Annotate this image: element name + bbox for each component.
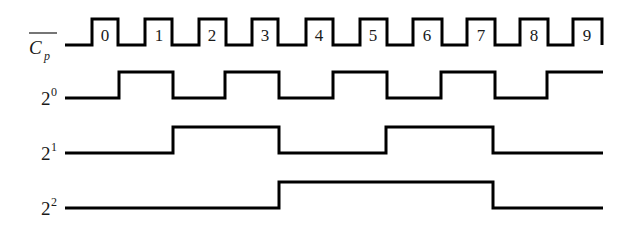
- bit0-label-base: 2: [41, 88, 51, 109]
- bit1-signal-label: 2 1: [41, 140, 57, 164]
- pulse-label-6: 6: [423, 26, 432, 45]
- pulse-label-2: 2: [208, 26, 217, 45]
- bit1-label-base: 2: [41, 143, 51, 164]
- bit1-waveform: [65, 127, 603, 153]
- bit0-signal-label: 2 0: [41, 85, 57, 109]
- bit1-label-exp: 1: [51, 140, 57, 154]
- bit2-waveform: [65, 182, 603, 208]
- bit2-label-base: 2: [41, 198, 51, 219]
- clock-waveform: [65, 19, 602, 45]
- pulse-label-7: 7: [477, 26, 486, 45]
- pulse-label-3: 3: [261, 26, 270, 45]
- pulse-label-5: 5: [369, 26, 378, 45]
- bit0-label-exp: 0: [51, 85, 57, 99]
- clock-label-main: C: [29, 37, 42, 58]
- clock-label-sub: p: [43, 49, 50, 63]
- pulse-label-4: 4: [315, 26, 324, 45]
- pulse-label-0: 0: [101, 26, 110, 45]
- pulse-label-1: 1: [155, 26, 164, 45]
- pulse-label-8: 8: [530, 26, 539, 45]
- bit2-signal-label: 2 2: [41, 195, 57, 219]
- bit0-waveform: [65, 72, 603, 98]
- pulse-label-9: 9: [583, 26, 592, 45]
- clock-pulse-labels: 0 1 2 3 4 5 6 7 8 9: [101, 26, 592, 45]
- bit2-label-exp: 2: [51, 195, 57, 209]
- clock-signal-label: C p: [29, 33, 57, 63]
- timing-diagram: C p 0 1 2 3 4 5 6 7 8 9 2 0 2 1 2 2: [0, 0, 634, 236]
